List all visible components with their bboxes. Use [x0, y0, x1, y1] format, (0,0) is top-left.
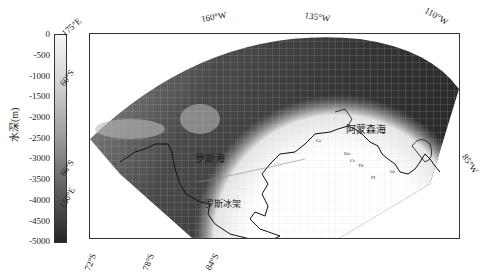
colorbar-tick: -2000 [6, 112, 50, 122]
colorbar-tick: -5000 [6, 236, 50, 246]
glacier-label: Ab [389, 169, 395, 174]
amundsen-sea-label: 阿蒙森海 [346, 121, 386, 136]
colorbar-tick: -4000 [6, 195, 50, 205]
colorbar-tick: -3500 [6, 174, 50, 184]
glacier-label: Cr [350, 158, 355, 163]
colorbar-tick: 0 [6, 29, 50, 39]
map-frame [89, 33, 460, 239]
lon-label: 175°E [60, 16, 84, 38]
glacier-label: Ge [316, 138, 322, 143]
colorbar-tick: -1000 [6, 71, 50, 81]
lon-label: 135°W [304, 10, 331, 23]
lon-label: 110°W [423, 5, 450, 26]
glacier-label: PI [371, 175, 375, 180]
map-canvas [90, 34, 459, 238]
ross-ice-shelf-label: 罗斯冰架 [205, 197, 241, 210]
colorbar [54, 34, 67, 243]
glacier-label: Th [358, 163, 364, 168]
glacier-label: Do [344, 151, 350, 156]
ross-sea-label: 罗斯海 [195, 150, 225, 165]
lon-label: 160°W [200, 10, 227, 24]
lat-label: 84°S [203, 252, 220, 272]
lat-label: 72°S [83, 252, 98, 272]
lat-label: 78°S [141, 252, 156, 272]
colorbar-tick: -3000 [6, 153, 50, 163]
colorbar-tick: -4500 [6, 216, 50, 226]
colorbar-tick: -1500 [6, 91, 50, 101]
colorbar-tick: -500 [6, 50, 50, 60]
colorbar-tick: -2500 [6, 133, 50, 143]
lon-label: 85°W [460, 152, 480, 175]
